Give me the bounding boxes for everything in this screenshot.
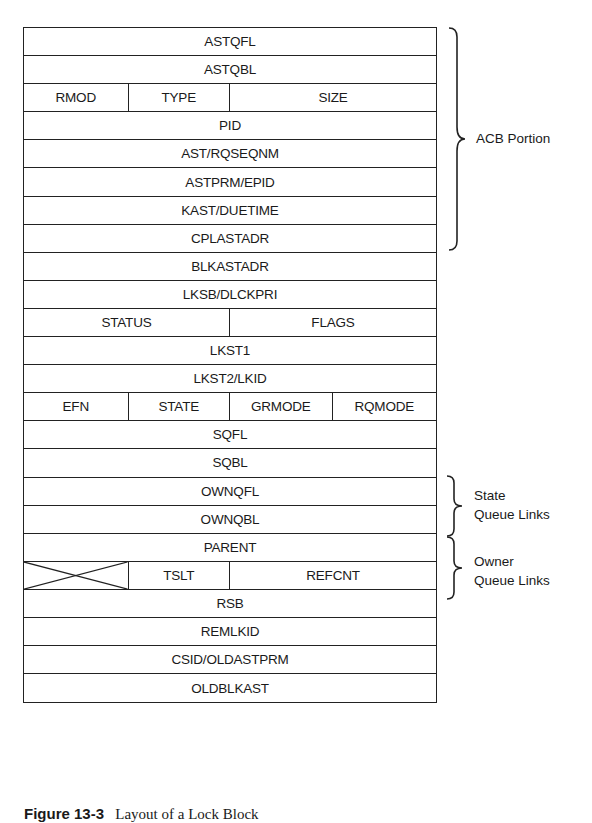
field-cell: OWNQFL bbox=[24, 478, 436, 505]
table-row: OWNQBL bbox=[24, 506, 436, 534]
table-row: REMLKID bbox=[24, 618, 436, 646]
field-cell: RMOD bbox=[24, 84, 129, 111]
table-row: RMODTYPESIZE bbox=[24, 84, 436, 112]
table-row: SQBL bbox=[24, 449, 436, 477]
field-cell: REMLKID bbox=[24, 618, 436, 645]
table-row: TSLTREFCNT bbox=[24, 562, 436, 590]
lock-block-layout-table: ASTQFLASTQBLRMODTYPESIZEPIDAST/RQSEQNMAS… bbox=[23, 27, 437, 703]
field-cell: BLKASTADR bbox=[24, 253, 436, 280]
field-cell: LKST2/LKID bbox=[24, 365, 436, 392]
table-row: ASTQFL bbox=[24, 28, 436, 56]
table-row: RSB bbox=[24, 590, 436, 618]
table-row: STATUSFLAGS bbox=[24, 309, 436, 337]
table-row: AST/RQSEQNM bbox=[24, 140, 436, 168]
field-cell: LKST1 bbox=[24, 337, 436, 364]
table-row: OLDBLKAST bbox=[24, 674, 436, 702]
figure-number: Figure 13-3 bbox=[24, 805, 104, 822]
curly-brace-icon bbox=[445, 536, 465, 600]
field-cell: ASTPRM/EPID bbox=[24, 168, 436, 195]
table-row: ASTQBL bbox=[24, 56, 436, 84]
field-cell: TYPE bbox=[129, 84, 231, 111]
table-row: LKST1 bbox=[24, 337, 436, 365]
crossed-out-icon bbox=[24, 562, 128, 589]
table-row: KAST/DUETIME bbox=[24, 197, 436, 225]
table-row: SQFL bbox=[24, 421, 436, 449]
field-cell: PID bbox=[24, 112, 436, 139]
brace-label-acb-portion: ACB Portion bbox=[476, 129, 550, 148]
field-cell: FLAGS bbox=[230, 309, 436, 336]
table-row: ASTPRM/EPID bbox=[24, 168, 436, 196]
field-cell: RQMODE bbox=[333, 393, 437, 420]
curly-brace-icon bbox=[447, 27, 467, 251]
brace-state-queue-links bbox=[445, 475, 465, 541]
brace-owner-queue-links bbox=[445, 536, 465, 604]
field-cell: RSB bbox=[24, 590, 436, 617]
figure-caption: Figure 13-3 Layout of a Lock Block bbox=[24, 805, 259, 823]
field-cell: KAST/DUETIME bbox=[24, 197, 436, 224]
field-cell: CSID/OLDASTPRM bbox=[24, 646, 436, 673]
unused-field-cell bbox=[24, 562, 129, 589]
field-cell: ASTQBL bbox=[24, 56, 436, 83]
field-cell: STATUS bbox=[24, 309, 230, 336]
field-cell: STATE bbox=[129, 393, 231, 420]
field-cell: PARENT bbox=[24, 534, 436, 561]
field-cell: CPLASTADR bbox=[24, 225, 436, 252]
field-cell: SQFL bbox=[24, 421, 436, 448]
table-row: EFNSTATEGRMODERQMODE bbox=[24, 393, 436, 421]
field-cell: LKSB/DLCKPRI bbox=[24, 281, 436, 308]
field-cell: OWNQBL bbox=[24, 506, 436, 533]
table-row: OWNQFL bbox=[24, 478, 436, 506]
figure-caption-text: Layout of a Lock Block bbox=[115, 806, 258, 822]
field-cell: SQBL bbox=[24, 449, 436, 476]
brace-label-state-queue-links: State Queue Links bbox=[474, 486, 550, 524]
table-row: PARENT bbox=[24, 534, 436, 562]
curly-brace-icon bbox=[445, 475, 465, 537]
table-row: CSID/OLDASTPRM bbox=[24, 646, 436, 674]
table-row: LKSB/DLCKPRI bbox=[24, 281, 436, 309]
table-row: PID bbox=[24, 112, 436, 140]
field-cell: GRMODE bbox=[230, 393, 333, 420]
brace-acb-portion bbox=[447, 27, 467, 255]
field-cell: SIZE bbox=[230, 84, 436, 111]
field-cell: TSLT bbox=[129, 562, 231, 589]
field-cell: REFCNT bbox=[230, 562, 436, 589]
field-cell: EFN bbox=[24, 393, 129, 420]
field-cell: OLDBLKAST bbox=[24, 674, 436, 702]
brace-label-owner-queue-links: Owner Queue Links bbox=[474, 552, 550, 590]
table-row: BLKASTADR bbox=[24, 253, 436, 281]
table-row: CPLASTADR bbox=[24, 225, 436, 253]
table-row: LKST2/LKID bbox=[24, 365, 436, 393]
field-cell: ASTQFL bbox=[24, 28, 436, 55]
field-cell: AST/RQSEQNM bbox=[24, 140, 436, 167]
